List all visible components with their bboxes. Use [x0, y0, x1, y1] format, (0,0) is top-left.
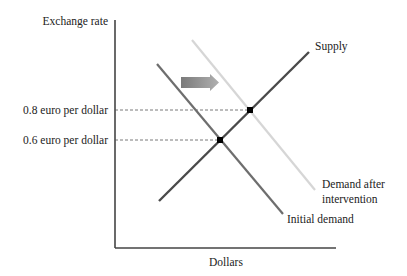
- supply-label: Supply: [315, 40, 348, 53]
- x-axis-label: Dollars: [209, 256, 243, 268]
- tick-label-high: 0.8 euro per dollar: [23, 104, 108, 117]
- demand-after-label-line1: Demand after: [322, 178, 385, 190]
- shift-right-arrow-icon: [181, 74, 219, 91]
- supply-line: [159, 52, 309, 201]
- equilibrium-point-low: [217, 137, 223, 143]
- equilibrium-point-high: [247, 107, 253, 113]
- initial-demand-label: Initial demand: [287, 213, 354, 225]
- exchange-rate-diagram: Exchange rate 0.8 euro per dollar 0.6 eu…: [0, 0, 407, 276]
- demand-after-intervention-line: [192, 40, 315, 190]
- y-axis-label: Exchange rate: [43, 15, 108, 28]
- demand-after-label-line2: intervention: [322, 193, 378, 205]
- tick-label-low: 0.6 euro per dollar: [23, 134, 108, 147]
